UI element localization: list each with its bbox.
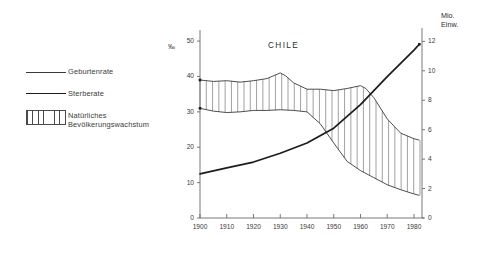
x-tick-label: 1950: [321, 223, 347, 230]
legend-item-sterberate: Sterberate: [24, 88, 174, 101]
legend-key-death-rate: [24, 88, 68, 101]
y-tick-label-left: 20: [178, 143, 194, 150]
chart-page: Geburtenrate Sterberate Natürliches Bevö…: [0, 0, 492, 270]
legend-label-natural-growth: Natürliches Bevölkerungswachstum: [68, 110, 149, 129]
y-tick-label-left: 40: [178, 72, 194, 79]
legend-item-geburtenrate: Geburtenrate: [24, 66, 174, 79]
legend-key-birth-rate: [24, 66, 68, 79]
x-tick-label: 1960: [347, 223, 373, 230]
marker-birth-start: [199, 79, 202, 82]
thick-line-icon: [26, 93, 66, 94]
marker-pop-end: [418, 43, 421, 46]
legend-label-birth-rate: Geburtenrate: [68, 66, 113, 77]
y-tick-label-left: 10: [178, 179, 194, 186]
hatch-box-icon: [26, 110, 66, 125]
legend-item-natural-growth: Natürliches Bevölkerungswachstum: [24, 110, 174, 129]
y-tick-label-right: 0: [428, 214, 444, 221]
thin-line-icon: [26, 72, 66, 73]
legend-key-natural-growth: [24, 110, 68, 123]
y-tick-label-right: 4: [428, 155, 444, 162]
legend-label-death-rate: Sterberate: [68, 88, 104, 99]
y-tick-label-right: 10: [428, 67, 444, 74]
plot-area: 0102030405002468101219001910192019301940…: [186, 22, 436, 238]
y-tick-label-left: 0: [178, 214, 194, 221]
y-tick-label-left: 50: [178, 37, 194, 44]
x-tick-label: 1920: [240, 223, 266, 230]
y-tick-label-right: 8: [428, 96, 444, 103]
x-tick-label: 1900: [187, 223, 213, 230]
x-tick-label: 1930: [267, 223, 293, 230]
x-tick-label: 1940: [294, 223, 320, 230]
y-tick-label-left: 30: [178, 108, 194, 115]
series-line-sterberate: [200, 108, 419, 195]
y-tick-label-right: 2: [428, 185, 444, 192]
x-tick-label: 1910: [214, 223, 240, 230]
y-axis-right-unit: Mio.Einw.: [441, 12, 458, 29]
y-tick-label-right: 6: [428, 126, 444, 133]
x-tick-label: 1970: [374, 223, 400, 230]
natural-growth-band: [200, 74, 420, 196]
chart-legend: Geburtenrate Sterberate Natürliches Bevö…: [24, 66, 174, 138]
x-tick-label: 1980: [401, 223, 427, 230]
y-axis-left-unit: ‰: [168, 43, 175, 50]
marker-death-start: [199, 107, 202, 110]
y-tick-label-right: 12: [428, 37, 444, 44]
legend-label-natural-growth-line2: Bevölkerungswachstum: [68, 121, 149, 130]
chart-canvas: [186, 22, 436, 238]
series-line-bevoelkerung: [200, 44, 419, 174]
series-line-geburtenrate: [200, 73, 419, 140]
